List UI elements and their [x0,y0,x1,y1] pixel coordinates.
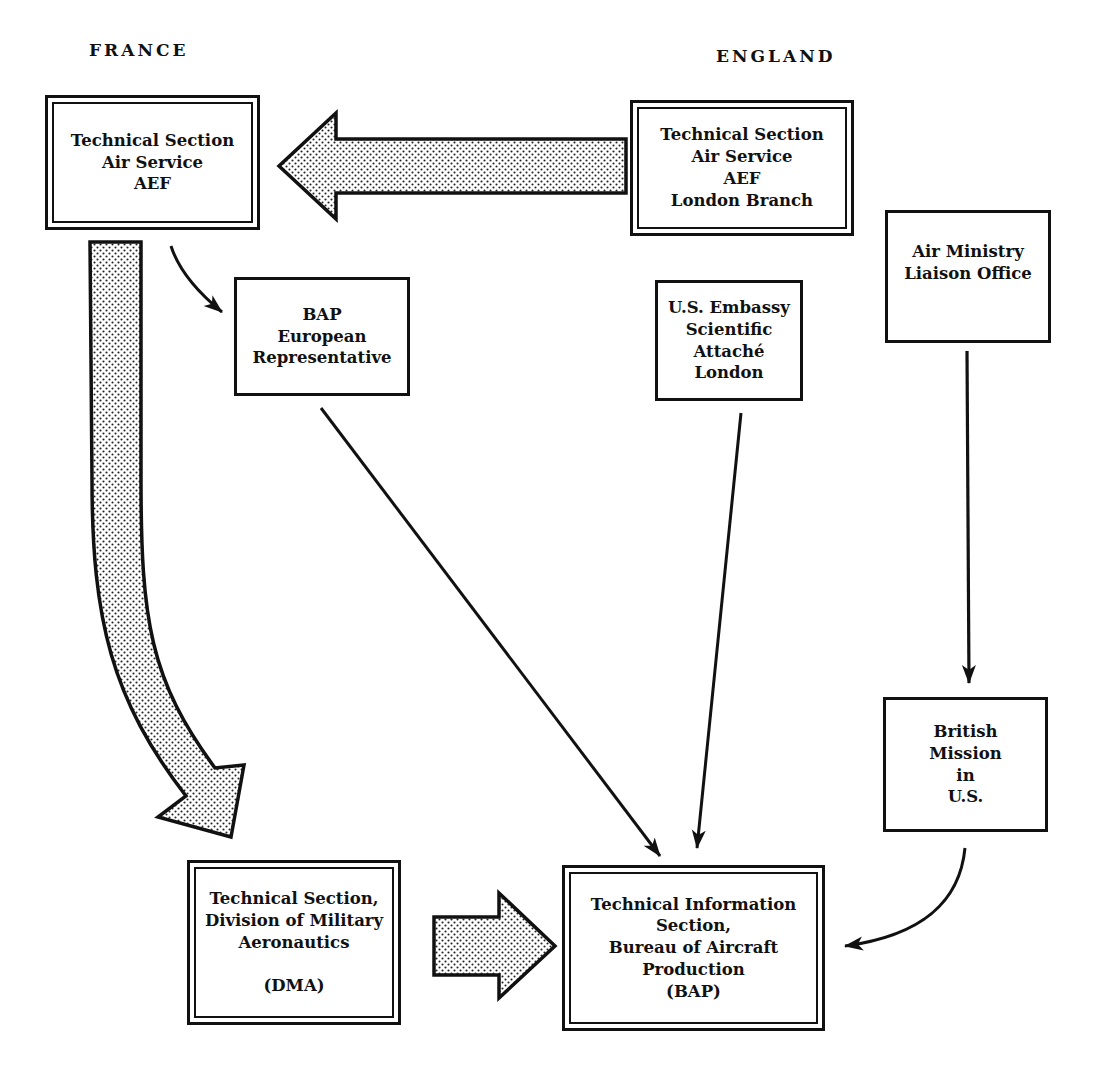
node-line: European [278,326,367,348]
node-air-ministry: Air Ministry Liaison Office [885,210,1051,343]
node-line: Technical Section [660,124,823,146]
node-tech-info-bap: Technical Information Section, Bureau of… [562,865,825,1031]
node-line: U.S. Embassy [668,297,790,319]
node-british-mission: British Mission in U.S. [883,697,1048,832]
node-line: Mission [929,743,1001,765]
node-line: AEF [134,173,171,195]
node-line: Representative [252,347,391,369]
node-line: Aeronautics [239,932,350,954]
node-line: in [956,765,974,787]
wide-arrow-london-to-france [279,113,626,219]
node-line: (DMA) [264,975,325,997]
region-label-england: ENGLAND [716,46,835,66]
node-line: Technical Information [591,894,797,916]
node-line: Technical Section [71,130,234,152]
thin-arrow-mission-to-bap [845,848,965,946]
thin-arrow-air-ministry-to-mission [967,351,969,683]
node-dma: Technical Section, Division of Military … [187,860,401,1025]
node-line: BAP [302,304,341,326]
wide-curved-arrow-france-to-dma [90,242,244,837]
thin-arrow-france-to-european-rep [171,246,222,312]
node-line: Section, [656,915,731,937]
wide-arrow-dma-to-bap [434,893,555,998]
node-line: Air Ministry [912,241,1024,263]
node-line: Division of Military [205,910,383,932]
node-line: Attaché [694,341,765,363]
region-label-france: FRANCE [89,40,188,60]
node-line: AEF [723,168,760,190]
node-line: Technical Section, [209,888,378,910]
node-line: U.S. [948,786,984,808]
node-us-embassy: U.S. Embassy Scientific Attaché London [655,280,803,401]
node-line: Air Service [102,152,203,174]
node-line: London [694,362,763,384]
node-line: Production [642,959,745,981]
node-line: Scientific [686,319,773,341]
node-line: (BAP) [666,981,721,1003]
node-bap-european-rep: BAP European Representative [234,277,410,396]
node-tech-section-france: Technical Section Air Service AEF [45,95,260,230]
node-line: London Branch [671,190,813,212]
node-line: Air Service [691,146,792,168]
thin-arrow-embassy-to-bap [697,413,741,848]
node-line: Liaison Office [904,263,1032,285]
node-tech-section-london: Technical Section Air Service AEF London… [630,100,854,236]
node-line: Bureau of Aircraft [609,937,778,959]
thin-arrow-european-rep-to-bap [321,408,660,856]
node-line: British [933,721,997,743]
